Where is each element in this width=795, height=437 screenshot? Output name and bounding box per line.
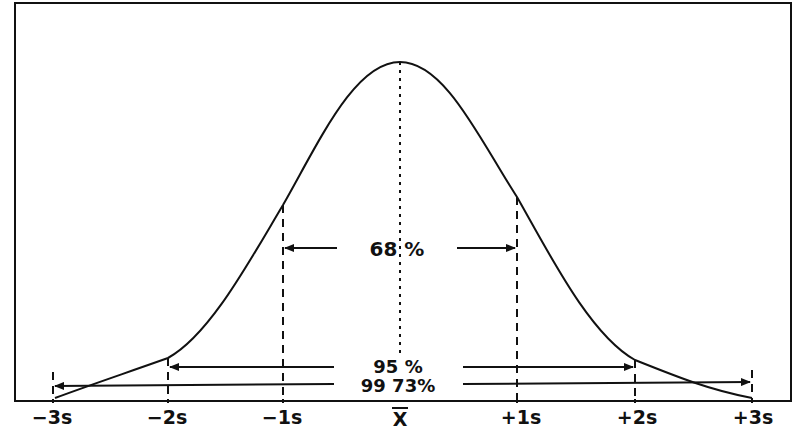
label-68-percent: 68 % xyxy=(370,237,425,261)
tick-label-plus1s: +1s xyxy=(501,406,541,428)
label-99-73-percent: 99 73% xyxy=(361,375,435,396)
normal-distribution-diagram: 68 % 95 % 99 73% −3s −2s −1s X +1s +2s +… xyxy=(0,0,795,437)
tick-label-plus3s: +3s xyxy=(733,406,773,428)
tick-label-plus2s: +2s xyxy=(617,406,657,428)
tick-label-mean: X xyxy=(393,408,408,430)
label-95-percent: 95 % xyxy=(373,356,422,377)
tick-label-minus2s: −2s xyxy=(147,406,187,428)
tick-label-minus3s: −3s xyxy=(32,406,72,428)
tick-label-minus1s: −1s xyxy=(262,406,302,428)
arrow-99-right xyxy=(463,382,750,384)
arrow-99-left xyxy=(55,384,334,386)
bell-curve xyxy=(55,62,752,398)
